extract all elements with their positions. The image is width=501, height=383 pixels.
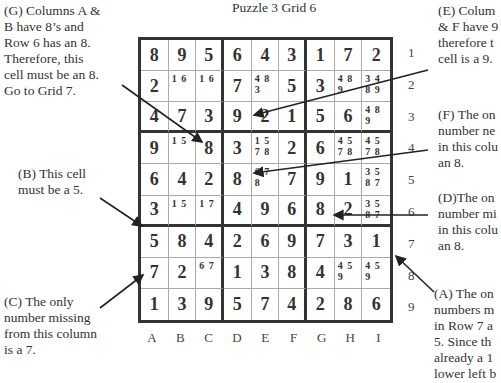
pencil-marks: 1 7 [199,198,219,209]
cell-E7: 6 [252,227,280,258]
arrow-c [100,275,143,308]
cell-A5: 6 [141,164,169,195]
cell-H2: 4 8 9 [335,71,363,102]
cell-value: 3 [316,76,325,97]
note-c: (C) The only number missing from this co… [4,294,97,358]
cell-H9: 8 [335,289,363,320]
cell-value: 6 [287,199,296,220]
cell-E4: 1 5 7 8 [252,133,280,164]
cell-value: 9 [287,231,296,252]
cell-D5: 8 [224,164,252,195]
cell-value: 2 [177,262,186,283]
cell-value: 7 [260,294,269,315]
puzzle-title: Puzzle 3 Grid 6 [232,0,316,16]
cell-C4: 8 [196,133,224,164]
row-label: 9 [408,299,415,315]
cell-H5: 1 [335,164,363,195]
cell-value: 6 [233,45,242,66]
column-label: I [364,330,392,346]
cell-value: 4 [316,262,325,283]
column-label: G [308,330,336,346]
cell-value: 4 [287,294,296,315]
cell-I1: 2 [362,40,390,71]
cell-value: 3 [204,106,213,127]
pencil-marks: 4 8 9 [365,104,388,126]
cell-A3: 4 [141,102,169,133]
cell-value: 4 [260,45,269,66]
arrow-a [396,256,434,292]
cell-F4: 2 [279,133,307,164]
cell-D9: 5 [224,289,252,320]
cell-F6: 6 [279,196,307,227]
sudoku-grid: 89564317221 61 674 8 3534 8 93 4 8 94739… [138,37,393,323]
cell-C5: 2 [196,164,224,195]
column-label: H [336,330,364,346]
pencil-marks: 1 6 [199,73,219,84]
cell-F2: 5 [279,71,307,102]
cell-F1: 3 [279,40,307,71]
pencil-marks: 3 4 8 9 [365,73,388,95]
cell-F7: 9 [279,227,307,258]
cell-G1: 1 [307,40,335,71]
row-label: 5 [408,172,415,188]
cell-value: 4 [204,231,213,252]
column-label: F [280,330,308,346]
cell-F8: 8 [279,258,307,289]
cell-I5: 3 5 8 7 [362,164,390,195]
cell-A4: 9 [141,133,169,164]
cell-B2: 1 6 [169,71,197,102]
cell-value: 9 [260,199,269,220]
cell-value: 3 [150,199,159,220]
cell-value: 2 [233,231,242,252]
cell-value: 8 [177,231,186,252]
cell-value: 6 [343,106,352,127]
cell-value: 7 [233,76,242,97]
note-a: (A) The on numbers m in Row 7 a 5. Since… [434,286,496,382]
cell-B1: 9 [169,40,197,71]
cell-D8: 1 [224,258,252,289]
cell-H6: 2 [335,196,363,227]
cell-D4: 3 [224,133,252,164]
row-label: 3 [408,109,415,125]
cell-H8: 4 5 9 [335,258,363,289]
pencil-marks: 6 7 [199,260,219,271]
cell-value: 7 [343,45,352,66]
cell-value: 8 [204,138,213,159]
cell-G3: 5 [307,102,335,133]
cell-B6: 1 5 [169,196,197,227]
note-e: (E) Colum & F have 9 therefore t cell is… [438,3,498,67]
cell-E1: 4 [252,40,280,71]
column-label: D [223,330,251,346]
pencil-marks: 3 5 8 7 [365,166,388,188]
cell-D2: 7 [224,71,252,102]
pencil-marks: 1 6 [172,73,194,84]
cell-F5: 7 [279,164,307,195]
pencil-marks: 4 5 9 [365,260,388,282]
cell-D6: 4 [224,196,252,227]
cell-E9: 7 [252,289,280,320]
cell-value: 2 [343,199,352,220]
cell-value: 9 [316,169,325,190]
cell-value: 2 [372,45,381,66]
cell-value: 4 [150,106,159,127]
pencil-marks: 4 8 9 [338,73,360,95]
cell-value: 6 [372,294,381,315]
cell-I8: 4 5 9 [362,258,390,289]
cell-value: 5 [316,106,325,127]
cell-value: 2 [150,76,159,97]
cell-value: 8 [233,169,242,190]
cell-value: 5 [150,231,159,252]
pencil-marks: 6 7 8 [255,166,277,188]
cell-value: 2 [204,169,213,190]
row-label: 7 [408,236,415,252]
cell-value: 6 [260,231,269,252]
cell-F3: 1 [279,102,307,133]
cell-I6: 3 5 8 7 [362,196,390,227]
cell-value: 3 [233,138,242,159]
cell-G4: 6 [307,133,335,164]
column-label: C [195,330,223,346]
cell-C8: 6 7 [196,258,224,289]
cell-E6: 9 [252,196,280,227]
cell-C1: 5 [196,40,224,71]
pencil-marks: 1 5 [172,135,194,146]
